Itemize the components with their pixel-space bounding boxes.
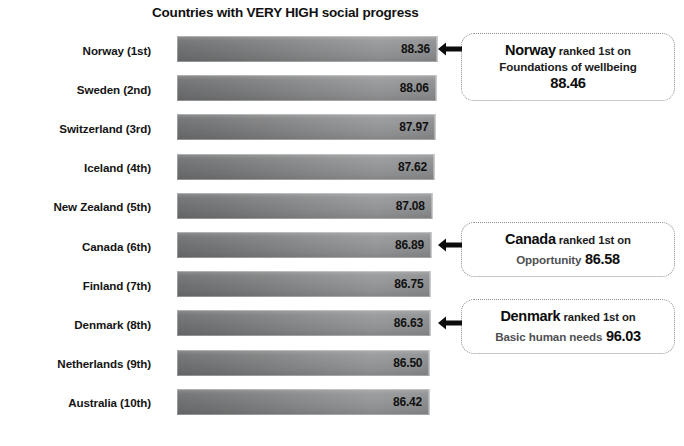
bar-track: 87.08 xyxy=(177,193,432,219)
callout-denmark-score: 96.03 xyxy=(602,328,641,344)
bar-value-label: 86.50 xyxy=(393,356,422,370)
callout-norway-rank: ranked 1st on xyxy=(556,45,631,57)
bar-row: Australia (10th)86.42 xyxy=(0,383,455,422)
callout-denmark-dimension: Basic human needs xyxy=(495,330,602,343)
bar-track: 87.62 xyxy=(177,154,434,180)
bar-value-label: 86.75 xyxy=(394,277,423,291)
bar-row: Sweden (2nd)88.06 xyxy=(0,69,455,108)
bar-category-label: Netherlands (9th) xyxy=(57,357,151,370)
callout-canada: Canada ranked 1st on Opportunity 86.58 xyxy=(461,222,675,277)
callout-denmark-rank: ranked 1st on xyxy=(560,311,635,323)
bar-fill xyxy=(177,193,433,219)
bar-fill xyxy=(177,232,432,258)
callout-denmark-country: Denmark xyxy=(500,308,560,324)
bar-value-label: 87.08 xyxy=(396,199,425,213)
bar-category-label: Iceland (4th) xyxy=(84,161,151,174)
callout-denmark-detail: Basic human needs 96.03 xyxy=(470,326,666,346)
left-arrow-icon-denmark xyxy=(437,314,463,332)
bar-row: Norway (1st)88.36 xyxy=(0,30,455,69)
bar-category-label: New Zealand (5th) xyxy=(53,200,151,213)
callout-norway-score: 88.46 xyxy=(470,74,666,92)
callout-norway-country: Norway xyxy=(505,42,556,58)
bar-track: 88.06 xyxy=(177,75,436,101)
bar-row: New Zealand (5th)87.08 xyxy=(0,187,455,226)
bar-track: 88.36 xyxy=(177,36,437,62)
bar-value-label: 86.89 xyxy=(395,238,424,252)
bar-fill xyxy=(177,36,438,62)
bar-row: Canada (6th)86.89 xyxy=(0,226,455,265)
bar-track: 86.63 xyxy=(177,310,430,336)
bar-value-label: 88.06 xyxy=(400,81,429,95)
callout-denmark: Denmark ranked 1st on Basic human needs … xyxy=(461,299,675,354)
callout-norway-dimension: Foundations of wellbeing xyxy=(470,60,666,74)
callout-canada-detail: Opportunity 86.58 xyxy=(470,249,666,269)
bar-track: 87.97 xyxy=(177,114,435,140)
chart-title: Countries with VERY HIGH social progress xyxy=(152,5,572,20)
bar-track: 86.42 xyxy=(177,389,429,415)
bar-track: 86.89 xyxy=(177,232,431,258)
callout-canada-score: 86.58 xyxy=(581,251,620,267)
left-arrow-icon-norway xyxy=(437,40,463,58)
bar-fill xyxy=(177,271,431,297)
bar-row: Iceland (4th)87.62 xyxy=(0,148,455,187)
bar-value-label: 88.36 xyxy=(401,42,430,56)
bar-value-label: 87.97 xyxy=(399,120,428,134)
bar-category-label: Norway (1st) xyxy=(83,43,151,56)
callout-canada-dimension: Opportunity xyxy=(516,253,581,266)
bar-track: 86.75 xyxy=(177,271,430,297)
left-arrow-icon-canada xyxy=(437,236,463,254)
callout-norway: Norway ranked 1st on Foundations of well… xyxy=(461,33,675,101)
callout-denmark-headline: Denmark ranked 1st on xyxy=(470,306,666,326)
bar-value-label: 87.62 xyxy=(398,160,427,174)
bar-category-label: Australia (10th) xyxy=(68,396,151,409)
callout-norway-headline: Norway ranked 1st on xyxy=(470,40,666,60)
bar-row: Netherlands (9th)86.50 xyxy=(0,344,455,383)
bar-fill xyxy=(177,154,435,180)
bar-fill xyxy=(177,310,431,336)
bar-category-label: Canada (6th) xyxy=(82,239,151,252)
callout-canada-country: Canada xyxy=(505,231,556,247)
bar-fill xyxy=(177,75,437,101)
bar-row: Denmark (8th)86.63 xyxy=(0,304,455,343)
callout-canada-headline: Canada ranked 1st on xyxy=(470,229,666,249)
bar-row: Finland (7th)86.75 xyxy=(0,265,455,304)
bar-track: 86.50 xyxy=(177,350,429,376)
bar-chart-plot-area: Norway (1st)88.36Sweden (2nd)88.06Switze… xyxy=(0,30,455,422)
bar-category-label: Denmark (8th) xyxy=(74,317,151,330)
bar-fill xyxy=(177,114,436,140)
bar-value-label: 86.63 xyxy=(394,316,423,330)
bar-value-label: 86.42 xyxy=(393,395,422,409)
bar-category-label: Switzerland (3rd) xyxy=(59,121,151,134)
bar-row: Switzerland (3rd)87.97 xyxy=(0,108,455,147)
bar-category-label: Finland (7th) xyxy=(83,278,151,291)
callout-canada-rank: ranked 1st on xyxy=(556,234,631,246)
bar-category-label: Sweden (2nd) xyxy=(77,82,151,95)
